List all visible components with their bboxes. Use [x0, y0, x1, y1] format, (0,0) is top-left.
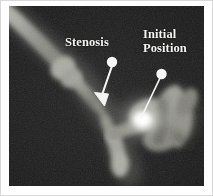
initial-position-line-2: Position: [143, 41, 187, 55]
annotation-label-initial-position: InitialPosition: [143, 28, 187, 55]
annotation-label-stenosis: Stenosis: [65, 36, 109, 50]
initial-position-leader: [141, 69, 167, 118]
initial-position-line-1: Initial: [143, 27, 176, 41]
angiogram-image-panel: Stenosis InitialPosition: [9, 6, 204, 186]
figure-root: Stenosis InitialPosition: [0, 0, 213, 196]
stenosis-leader: [95, 57, 118, 106]
